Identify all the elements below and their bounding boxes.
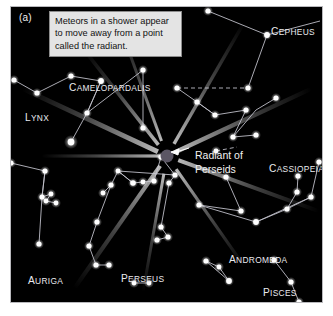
auriga-rest: URIGA: [35, 276, 63, 286]
panel-label: (a): [19, 12, 32, 23]
constellation-label-andromeda: ANDROMEDA: [229, 250, 287, 266]
radiant-label-line2: Perseids: [195, 163, 243, 177]
constellation-label-camelopardalis: CAMELOPARDALIS: [69, 78, 151, 94]
camelopardalis-rest: AMELOPARDALIS: [77, 83, 151, 93]
constellation-label-lynx: LYNX: [25, 108, 49, 124]
cepheus-rest: EPHEUS: [279, 27, 315, 37]
constellation-label-perseus: PERSEUS: [121, 269, 164, 285]
constellation-label-auriga: AURIGA: [28, 271, 63, 287]
pisces-rest: ISCES: [270, 288, 297, 298]
andromeda-rest: NDROMEDA: [236, 255, 287, 265]
constellation-label-pisces: PISCES: [263, 283, 297, 299]
radiant-label-line1: Radiant of: [195, 149, 243, 163]
lynx-rest: YNX: [31, 113, 49, 123]
cassiopeia-initial: C: [269, 163, 277, 174]
perseus-rest: ERSEUS: [128, 274, 164, 284]
meteor-shower-figure: (a) Meteors in a shower appear to move a…: [0, 0, 333, 316]
radiant-label: Radiant of Perseids: [195, 149, 243, 176]
constellation-label-cepheus: CEPHEUS: [271, 22, 315, 38]
constellation-label-cassiopeia: CASSIOPEIA: [269, 159, 323, 175]
radiant-callout-box: Meteors in a shower appear to move away …: [49, 11, 182, 57]
constellation-label-triangulum: TRIANGULUM: [186, 299, 246, 303]
sky-chart-panel: (a) Meteors in a shower appear to move a…: [10, 6, 323, 303]
cepheus-initial: C: [271, 26, 279, 37]
cassiopeia-rest: ASSIOPEIA: [277, 164, 323, 174]
camelopardalis-initial: C: [69, 82, 77, 93]
